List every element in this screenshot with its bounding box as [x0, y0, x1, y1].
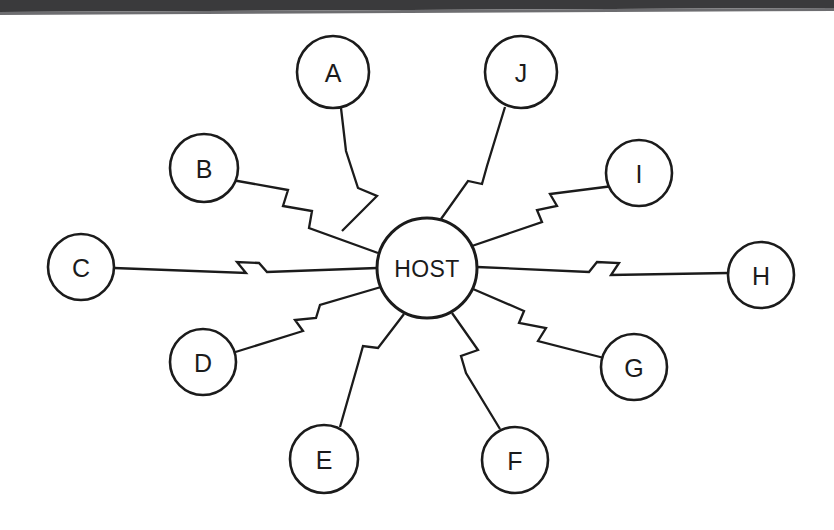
- node-i[interactable]: I: [606, 140, 672, 206]
- link-host-e: [340, 314, 404, 427]
- node-b-label: B: [196, 155, 213, 183]
- link-host-h: [477, 262, 728, 275]
- node-host-label: HOST: [394, 256, 460, 282]
- node-d[interactable]: D: [170, 329, 236, 395]
- node-c-label: C: [72, 254, 90, 282]
- link-host-i: [469, 186, 613, 247]
- node-c[interactable]: C: [48, 234, 114, 300]
- node-f-label: F: [507, 447, 522, 475]
- link-host-d: [229, 287, 381, 354]
- node-a-label: A: [325, 59, 342, 87]
- node-j-label: J: [515, 59, 528, 87]
- node-d-label: D: [194, 349, 212, 377]
- node-f[interactable]: F: [482, 427, 548, 493]
- link-host-g: [473, 289, 604, 358]
- node-e-label: E: [316, 446, 333, 474]
- link-host-f: [452, 313, 500, 429]
- node-j[interactable]: J: [485, 36, 557, 108]
- node-b[interactable]: B: [170, 134, 238, 202]
- node-host[interactable]: HOST: [377, 218, 477, 318]
- node-i-label: I: [636, 160, 643, 188]
- diagram-canvas: HOST A B C D E: [0, 0, 834, 530]
- node-g[interactable]: G: [601, 334, 667, 400]
- node-g-label: G: [624, 354, 643, 382]
- link-host-c: [114, 262, 377, 273]
- node-a[interactable]: A: [297, 36, 369, 108]
- node-h[interactable]: H: [728, 242, 794, 308]
- star-network-diagram: HOST A B C D E: [0, 0, 834, 530]
- node-e[interactable]: E: [290, 425, 358, 493]
- link-host-a: [341, 108, 377, 231]
- link-host-j: [441, 107, 505, 219]
- node-h-label: H: [752, 262, 770, 290]
